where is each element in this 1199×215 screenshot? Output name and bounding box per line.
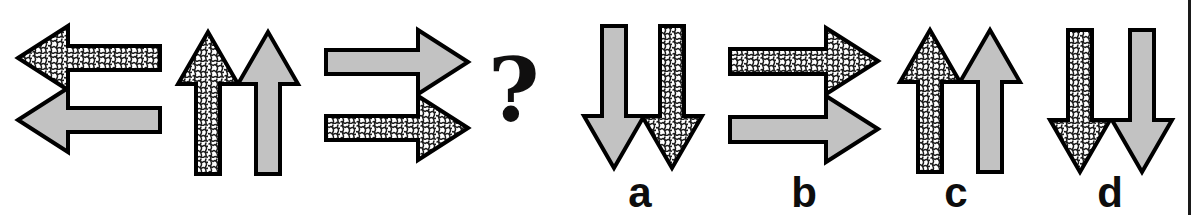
puzzle-canvas: ? a b c (0, 0, 1199, 215)
arrow-down-textured-d (1048, 28, 1112, 174)
arrow-right-textured-b (728, 24, 880, 96)
question-mark: ? (488, 46, 540, 134)
option-label-d[interactable]: d (1080, 172, 1140, 214)
option-label-b[interactable]: b (774, 172, 834, 214)
arrow-down-textured (640, 24, 704, 170)
arrow-left-textured (16, 22, 162, 92)
arrow-right-gray-b (728, 92, 880, 164)
arrow-up-gray-c (958, 28, 1022, 174)
arrow-up-gray (236, 30, 300, 176)
arrow-right-gray (324, 26, 470, 96)
option-label-a[interactable]: a (610, 172, 670, 214)
option-label-c[interactable]: c (926, 172, 986, 214)
arrow-down-gray (582, 24, 646, 170)
arrow-up-textured-c (898, 28, 962, 174)
right-edge-rule (1188, 0, 1191, 215)
arrow-down-gray-d (1110, 28, 1174, 174)
arrow-right-textured (324, 92, 470, 162)
arrow-left-gray (16, 84, 162, 154)
arrow-up-textured (176, 30, 240, 176)
